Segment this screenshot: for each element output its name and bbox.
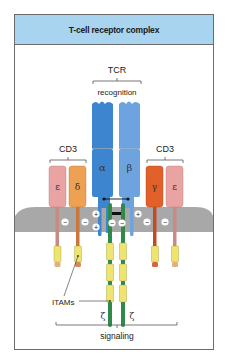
svg-text:−: −	[110, 220, 114, 227]
svg-text:−: −	[120, 220, 124, 227]
recognition-label: recognition	[97, 88, 136, 97]
svg-text:+: +	[94, 211, 98, 218]
gamma-label: γ	[152, 182, 157, 192]
beta-label: β	[127, 162, 133, 173]
zeta-left-label: ζ	[101, 311, 106, 321]
signaling-bracket	[56, 322, 177, 328]
zeta-zeta-disulfide-bond	[112, 212, 121, 215]
cd3-left-label: CD3	[59, 144, 77, 154]
epsilon-left-label: ε	[55, 182, 60, 192]
svg-text:−: −	[145, 219, 149, 226]
cd3-left-bracket	[50, 157, 86, 163]
tcr-bracket	[93, 78, 141, 84]
cd3-right-label: CD3	[156, 144, 174, 154]
tcr-complex-diagram: TCR recognition α β ζ ζ	[0, 0, 227, 360]
svg-text:+: +	[94, 224, 98, 231]
zeta-right-label: ζ	[130, 311, 135, 321]
svg-text:−: −	[163, 219, 167, 226]
itams-pointer-lines	[64, 256, 110, 301]
delta-label: δ	[75, 182, 80, 192]
epsilon-right-label: ε	[172, 182, 177, 192]
itams-label: ITAMs	[52, 298, 75, 307]
alpha-label: α	[99, 162, 106, 173]
svg-text:−: −	[63, 219, 67, 226]
svg-text:+: +	[136, 211, 140, 218]
signaling-label: signaling	[100, 331, 134, 341]
tcr-label: TCR	[108, 65, 127, 75]
svg-text:−: −	[83, 219, 87, 226]
cd3-right-bracket	[147, 157, 183, 163]
